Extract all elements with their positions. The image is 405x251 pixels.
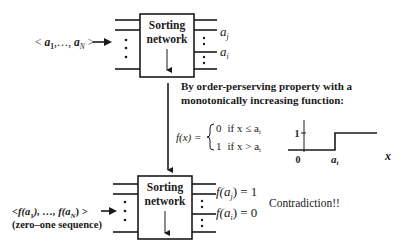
- ellipsis-dot: [125, 56, 128, 59]
- ellipsis-dot: [124, 219, 127, 222]
- formula-lhs: f(x) =: [176, 131, 201, 144]
- ellipsis-dot: [125, 39, 128, 42]
- ellipsis-dot: [124, 201, 127, 204]
- ellipsis-dot: [201, 219, 203, 221]
- bottom-input-sequence-label: <f(a1), …, f(aN) >: [12, 206, 88, 220]
- explanation-line-1: By order-perserving property with a: [181, 80, 353, 92]
- ellipsis-dot: [201, 206, 203, 208]
- ellipsis-dot: [201, 200, 203, 202]
- plot-x-tick-label: ai: [331, 153, 339, 167]
- ellipsis-dot: [203, 62, 205, 64]
- formula-case-2: 1if x > ai: [216, 140, 261, 153]
- formula-brace: [207, 124, 214, 150]
- ellipsis-dot: [203, 56, 205, 58]
- top-network-label-line2: network: [147, 33, 188, 45]
- step-function-line: [288, 133, 377, 150]
- step-function-plot: 1 0 ai x: [288, 120, 391, 167]
- ellipsis-dot: [125, 47, 128, 50]
- ellipsis-dot: [203, 37, 205, 39]
- piecewise-formula: f(x) = 0if x ≤ ai 1if x > ai: [176, 122, 261, 153]
- top-input-sequence-label: < a1,…, aN >: [35, 36, 94, 51]
- top-sorting-network: Sorting network aj ai < a1,…, aN >: [35, 14, 230, 77]
- bottom-output-label-faj: f(aj) = 1: [216, 184, 257, 201]
- bottom-sorting-network: Sorting network f(aj) = 1 f(ai) = 0 Cont…: [12, 176, 340, 239]
- explanation-line-2: monotonically increasing function:: [181, 94, 344, 106]
- sorting-network-diagram: Sorting network aj ai < a1,…, aN > By or…: [0, 0, 405, 251]
- formula-case-1: 0if x ≤ ai: [216, 122, 261, 135]
- bottom-output-label-fai: f(ai) = 0: [216, 205, 257, 222]
- contradiction-label: Contradiction!!: [269, 197, 340, 209]
- plot-x-axis-label: x: [384, 149, 391, 163]
- explanation-text: By order-perserving property with a mono…: [181, 80, 353, 106]
- ellipsis-dot: [201, 225, 203, 227]
- ellipsis-dot: [124, 210, 127, 213]
- bottom-input-sequence-note: (zero–one sequence): [12, 219, 102, 231]
- bottom-network-label-line2: network: [145, 195, 186, 207]
- ellipsis-dot: [203, 43, 205, 45]
- plot-origin-label: 0: [296, 154, 301, 165]
- top-output-label-aj: aj: [220, 24, 230, 41]
- top-network-label-line1: Sorting: [149, 19, 186, 32]
- top-output-label-ai: ai: [220, 44, 229, 61]
- bottom-network-label-line1: Sorting: [147, 181, 184, 194]
- plot-y-tick-label: 1: [295, 128, 300, 139]
